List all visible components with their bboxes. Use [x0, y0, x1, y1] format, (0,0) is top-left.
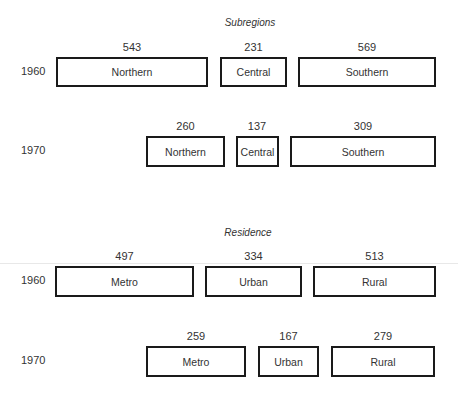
value-urban-1970: 167 [258, 330, 319, 342]
value-urban-1960: 334 [205, 250, 302, 262]
panel-title-subregions: Subregions [200, 17, 300, 28]
label-rural: Rural [370, 356, 395, 368]
value-northern-1960: 543 [56, 41, 208, 53]
box-central-1960: Central [220, 57, 287, 87]
row-label-1970: 1970 [21, 354, 45, 366]
box-rural-1970: Rural [331, 346, 435, 377]
box-northern-1960: Northern [56, 57, 208, 87]
label-central: Central [237, 66, 271, 78]
box-metro-1970: Metro [146, 346, 246, 377]
label-northern: Northern [165, 146, 206, 158]
label-southern: Southern [346, 66, 389, 78]
value-central-1970: 137 [236, 120, 278, 132]
box-southern-1960: Southern [298, 57, 436, 87]
value-metro-1970: 259 [146, 330, 246, 342]
value-central-1960: 231 [220, 41, 287, 53]
label-central: Central [241, 146, 275, 158]
box-metro-1960: Metro [55, 266, 194, 297]
box-urban-1960: Urban [205, 266, 302, 297]
row-label-1960: 1960 [21, 274, 45, 286]
value-rural-1960: 513 [313, 250, 436, 262]
panel-title-residence: Residence [198, 227, 298, 238]
box-central-1970: Central [236, 136, 279, 167]
value-southern-1970: 309 [290, 120, 436, 132]
box-rural-1960: Rural [313, 266, 436, 297]
row-label-1960: 1960 [21, 65, 45, 77]
label-northern: Northern [112, 66, 153, 78]
box-southern-1970: Southern [290, 136, 436, 167]
label-metro: Metro [183, 356, 210, 368]
box-northern-1970: Northern [146, 136, 225, 167]
label-urban: Urban [239, 276, 268, 288]
label-urban: Urban [274, 356, 303, 368]
label-metro: Metro [111, 276, 138, 288]
box-urban-1970: Urban [258, 346, 319, 377]
label-rural: Rural [362, 276, 387, 288]
value-northern-1970: 260 [146, 120, 225, 132]
scan-artifact-line [0, 263, 458, 264]
value-southern-1960: 569 [298, 41, 436, 53]
row-label-1970: 1970 [21, 144, 45, 156]
value-rural-1970: 279 [331, 330, 435, 342]
label-southern: Southern [342, 146, 385, 158]
value-metro-1960: 497 [55, 250, 194, 262]
